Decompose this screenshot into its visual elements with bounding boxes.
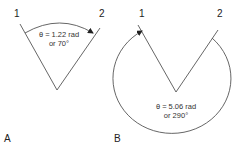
angle-text-a: θ = 1.22 rad or 70° <box>34 31 84 48</box>
panel-label-b: B <box>114 134 121 144</box>
ray-1-b <box>138 25 176 92</box>
angle-degrees-b: or 290° <box>150 112 202 121</box>
panel-label-a: A <box>4 134 11 144</box>
ray-2-b <box>176 30 218 92</box>
angle-degrees-a: or 70° <box>34 40 84 49</box>
ray-label-1-a: 1 <box>14 9 20 19</box>
angle-diagram <box>0 0 239 153</box>
ray-label-2-b: 2 <box>217 9 223 19</box>
ray-label-2-a: 2 <box>99 9 105 19</box>
ray-label-1-b: 1 <box>139 9 145 19</box>
angle-text-b: θ = 5.06 rad or 290° <box>150 103 202 120</box>
